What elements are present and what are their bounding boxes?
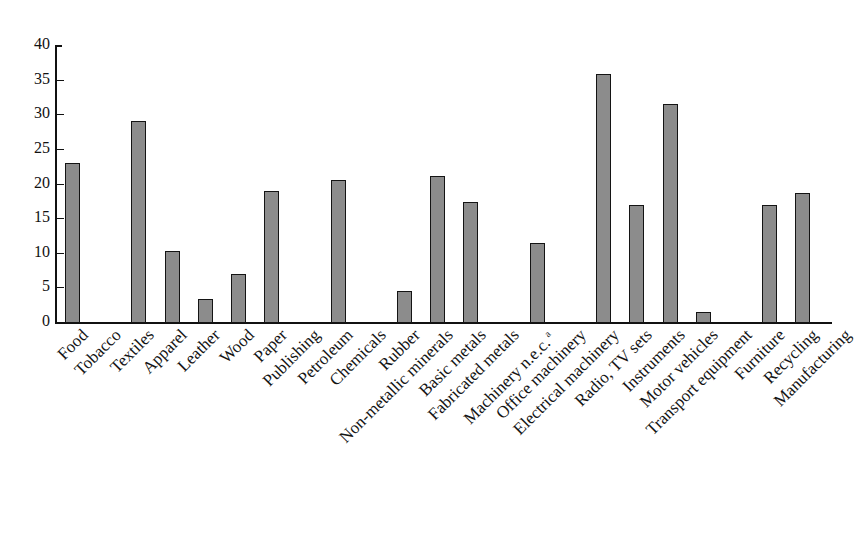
bar-apparel[interactable]: [165, 251, 180, 323]
footnote-marker: a: [541, 328, 554, 341]
x-axis-category-labels: FoodTobaccoTextilesApparelLeatherWoodPap…: [55, 326, 845, 536]
y-tick-label-0: 0: [4, 313, 50, 329]
y-tick-mark-15: [57, 218, 64, 219]
y-tick-mark-5: [57, 287, 64, 288]
y-tick-mark-35: [57, 80, 64, 81]
y-tick-label-5: 5: [4, 278, 50, 294]
y-tick-label-30: 30: [4, 105, 50, 121]
y-tick-label-10: 10: [4, 244, 50, 260]
bar-motor-vehicles[interactable]: [696, 312, 711, 323]
bar-basic-metals[interactable]: [463, 202, 478, 323]
bar-petroleum[interactable]: [331, 180, 346, 323]
y-axis-tick-labels: 0510152025303540: [0, 0, 50, 400]
y-tick-mark-10: [57, 253, 64, 254]
y-tick-label-25: 25: [4, 140, 50, 156]
y-tick-mark-20: [57, 184, 64, 185]
y-tick-label-20: 20: [4, 175, 50, 191]
chart-title: [0, 0, 843, 4]
bar-paper[interactable]: [264, 191, 279, 323]
bar-radio-tv-sets[interactable]: [629, 205, 644, 323]
bar-food[interactable]: [65, 163, 80, 323]
bar-non-metallic-minerals[interactable]: [430, 176, 445, 323]
bar-rubber[interactable]: [397, 291, 412, 323]
bar-leather[interactable]: [198, 299, 213, 323]
y-tick-mark-30: [57, 114, 64, 115]
y-tick-label-15: 15: [4, 209, 50, 225]
bar-machinery-n-e-c[interactable]: [530, 243, 545, 323]
y-tick-mark-25: [57, 149, 64, 150]
bar-instruments[interactable]: [663, 104, 678, 323]
x-label-wood: Wood: [216, 326, 257, 367]
y-tick-label-35: 35: [4, 71, 50, 87]
bar-recycling[interactable]: [795, 193, 810, 323]
bar-electrical-machinery[interactable]: [596, 74, 611, 323]
bar-textiles[interactable]: [131, 121, 146, 323]
y-tick-label-40: 40: [4, 36, 50, 52]
bar-wood[interactable]: [231, 274, 246, 323]
bar-furniture[interactable]: [762, 205, 777, 323]
bars-layer: [55, 45, 832, 323]
